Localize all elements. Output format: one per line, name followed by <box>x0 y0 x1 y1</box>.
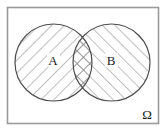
universal-set-label: Ω <box>142 107 152 122</box>
venn-diagram-figure: A B Ω <box>0 0 165 130</box>
set-a-label: A <box>48 53 58 68</box>
set-b-label: B <box>107 53 116 68</box>
venn-diagram-canvas: A B Ω <box>0 0 165 130</box>
